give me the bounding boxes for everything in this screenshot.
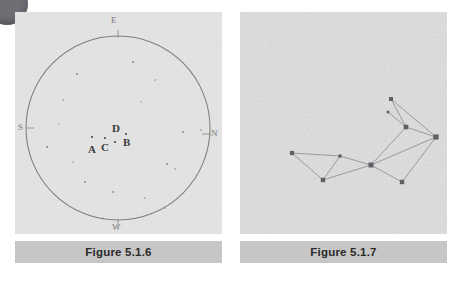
star-label-a: A <box>88 143 96 155</box>
compass-label-south: S <box>18 122 23 132</box>
network-graph-image <box>240 12 447 234</box>
star-chart-image: E S N W A C D B <box>15 12 222 234</box>
compass-label-north: N <box>211 128 218 138</box>
figure-caption-text-5-1-7: Figure 5.1.7 <box>310 246 376 258</box>
star-label-d: D <box>112 122 120 134</box>
star-label-c: C <box>101 141 109 153</box>
compass-label-west: W <box>112 222 121 232</box>
figure-caption-text-5-1-6: Figure 5.1.6 <box>85 246 151 258</box>
compass-label-east: E <box>111 15 117 25</box>
figure-caption-bar-5-1-6: Figure 5.1.6 <box>15 241 222 263</box>
figure-panel-5-1-6: E S N W A C D B Figure 5.1.6 <box>15 12 222 275</box>
figure-caption-bar-5-1-7: Figure 5.1.7 <box>240 241 447 263</box>
figure-panel-5-1-7: Figure 5.1.7 <box>240 12 447 275</box>
star-label-b: B <box>123 136 130 148</box>
